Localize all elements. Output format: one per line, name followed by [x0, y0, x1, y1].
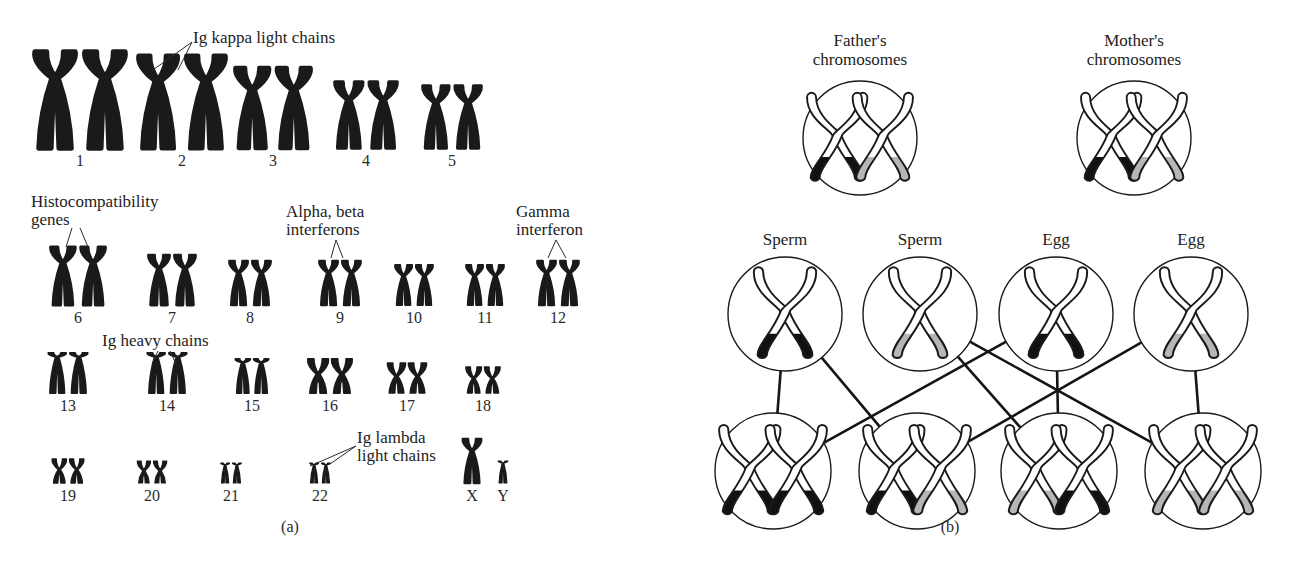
chromosome-number-5: 5 — [432, 152, 472, 170]
inheritance-drawing — [650, 0, 1294, 578]
leader-line-9 — [170, 351, 176, 364]
chromosome-number-20: 20 — [132, 487, 172, 505]
leader-line-11 — [330, 446, 356, 464]
gamete-cell-sperm-1 — [728, 257, 842, 371]
chromosome-pair-20 — [137, 461, 166, 483]
offspring-cell-offspring-1 — [715, 413, 831, 529]
chromosome-pair-8 — [229, 261, 270, 305]
chromosome-pair-14 — [147, 353, 186, 393]
chromosome-pair-5 — [423, 86, 481, 148]
chromosome-number-6: 6 — [58, 309, 98, 327]
chromosome-number-12: 12 — [538, 309, 578, 327]
label-mother-line1: Mother's — [1049, 31, 1219, 51]
chromosome-pair-18 — [466, 367, 500, 393]
chromosome-pair-9 — [319, 261, 360, 305]
label-mother-line2: chromosomes — [1049, 50, 1219, 70]
chromosome-number-19: 19 — [48, 487, 88, 505]
leader-line-2 — [66, 228, 72, 247]
annotation-gamma-interferon-line2: interferon — [516, 220, 583, 239]
panel-a-karyotype: Ig kappa light chains Histocompatibility… — [0, 0, 650, 578]
leader-line-3 — [80, 228, 88, 247]
chromosome-pair-1 — [35, 52, 125, 148]
panel-a-caption: (a) — [260, 518, 320, 536]
annotation-ig-lambda-light-chains-line1: Ig lambda — [357, 428, 425, 447]
chromosome-pair-19 — [52, 459, 84, 483]
chromosome-pair-15 — [235, 359, 268, 393]
chromosome-pair-X — [463, 439, 482, 483]
chromosome-number-11: 11 — [465, 309, 505, 327]
chromosome-number-18: 18 — [463, 397, 503, 415]
annotation-alpha-beta-interferons-line2: interferons — [286, 220, 360, 239]
annotation-ig-heavy-chains: Ig heavy chains — [102, 331, 209, 350]
chromosome-number-8: 8 — [230, 309, 270, 327]
panel-b-inheritance: (b) Father'schromosomesMother'schromosom… — [650, 0, 1294, 578]
chromosome-number-13: 13 — [48, 397, 88, 415]
chromosome-pair-6 — [51, 247, 106, 305]
chromosome-pair-7 — [148, 255, 195, 305]
chromosome-pair-11 — [466, 265, 504, 305]
chromosome-number-3: 3 — [253, 152, 293, 170]
chromosome-number-10: 10 — [394, 309, 434, 327]
annotation-alpha-beta-interferons-line1: Alpha, beta — [286, 202, 364, 221]
leader-line-10 — [310, 446, 356, 466]
chromosome-pair-17 — [387, 363, 426, 393]
offspring-cell-offspring-3 — [1001, 413, 1117, 529]
chromosome-pair-21 — [221, 463, 242, 483]
label-father-line2: chromosomes — [775, 50, 945, 70]
gamete-cell-egg-2 — [1134, 257, 1248, 371]
leader-line-7 — [556, 240, 566, 258]
chromosome-pair-2 — [139, 56, 226, 148]
chromosome-pair-Y — [498, 461, 508, 483]
offspring-cell-offspring-2 — [859, 413, 975, 529]
chromosome-number-2: 2 — [162, 152, 202, 170]
leader-line-0 — [150, 42, 192, 72]
chromosome-pair-10 — [395, 265, 433, 305]
chromosome-pair-4 — [335, 82, 397, 148]
annotation-gamma-interferon-line1: Gamma — [516, 202, 570, 221]
parent-cell-father — [803, 81, 917, 195]
offspring-cell-offspring-4 — [1145, 413, 1261, 529]
leader-line-8 — [152, 351, 158, 364]
chromosome-pair-22 — [310, 463, 331, 483]
figure-root: Ig kappa light chains Histocompatibility… — [0, 0, 1294, 578]
chromosome-number-17: 17 — [387, 397, 427, 415]
gamete-cell-egg-1 — [999, 257, 1113, 371]
annotation-ig-kappa-light-chains: Ig kappa light chains — [193, 28, 335, 47]
leader-line-6 — [548, 240, 556, 258]
chromosome-number-22: 22 — [300, 487, 340, 505]
chromosome-number-7: 7 — [152, 309, 192, 327]
chromosome-pair-16 — [308, 359, 352, 393]
chromosome-number-4: 4 — [346, 152, 386, 170]
chromosome-number-1: 1 — [60, 152, 100, 170]
label-father-line1: Father's — [775, 31, 945, 51]
chromosome-number-15: 15 — [232, 397, 272, 415]
chromosome-pair-13 — [48, 353, 87, 393]
leader-line-4 — [331, 240, 336, 258]
chromosome-number-9: 9 — [320, 309, 360, 327]
chromosome-number-16: 16 — [310, 397, 350, 415]
annotation-histocompatibility-genes-line1: Histocompatibility — [31, 192, 159, 211]
chromosome-pair-12 — [537, 261, 578, 305]
panel-b-caption: (b) — [920, 518, 980, 536]
annotation-histocompatibility-genes-line2: genes — [31, 210, 70, 229]
leader-line-1 — [178, 42, 192, 70]
annotation-ig-lambda-light-chains-line2: light chains — [357, 446, 436, 465]
chromosome-pair-3 — [235, 68, 310, 148]
chromosome-number-Y: Y — [483, 487, 523, 505]
connection-sperm-1-to-offspring-1 — [777, 371, 780, 413]
connection-egg-2-to-offspring-4 — [1195, 371, 1198, 413]
gamete-cell-sperm-2 — [863, 257, 977, 371]
chromosome-number-21: 21 — [211, 487, 251, 505]
leader-line-5 — [336, 240, 343, 258]
chromosome-number-14: 14 — [147, 397, 187, 415]
parent-cell-mother — [1077, 81, 1191, 195]
label-egg-2: Egg — [1106, 230, 1276, 250]
